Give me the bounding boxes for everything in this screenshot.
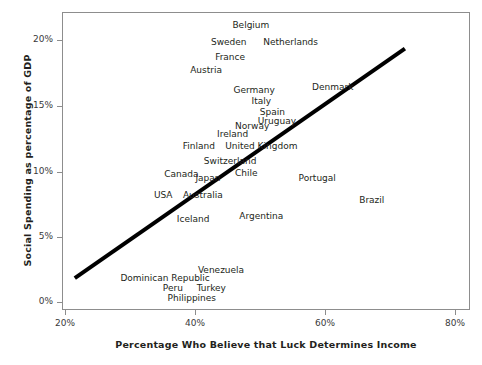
data-point-label: France (215, 52, 245, 61)
data-point-label: Japan (195, 173, 220, 182)
data-point-label: Philippines (168, 294, 217, 303)
data-point-label: Ireland (217, 130, 248, 139)
y-tick-label-0: 0% (13, 296, 53, 306)
y-tick-mark-10 (57, 172, 62, 173)
data-point-label: Netherlands (263, 38, 318, 47)
x-tick-label-80: 80% (433, 318, 477, 328)
y-tick-label-15: 15% (13, 100, 53, 110)
data-point-label: Austria (190, 65, 222, 74)
y-axis-title: Social Spending as percentage of GDP (22, 41, 33, 281)
data-point-label: Sweden (211, 38, 247, 47)
data-point-label: Argentina (239, 212, 283, 221)
y-tick-label-10: 10% (13, 166, 53, 176)
y-tick-label-20: 20% (13, 34, 53, 44)
data-point-label: Chile (235, 168, 258, 177)
x-tick-label-60: 60% (303, 318, 347, 328)
scatter-chart-figure: 20% 40% 60% 80% 0% 5% 10% 15% 20% Percen… (0, 0, 482, 365)
x-tick-label-40: 40% (173, 318, 217, 328)
data-point-label: Turkey (197, 283, 226, 292)
y-tick-mark-5 (57, 237, 62, 238)
data-point-label: Germany (234, 85, 275, 94)
y-tick-mark-15 (57, 106, 62, 107)
data-point-label: Peru (163, 283, 183, 292)
data-point-label: Canada (164, 170, 198, 179)
data-point-label: United Kingdom (225, 142, 297, 151)
y-tick-mark-20 (57, 40, 62, 41)
x-tick-label-20: 20% (43, 318, 87, 328)
data-point-label: Brazil (359, 196, 384, 205)
x-tick-mark-40 (195, 310, 196, 315)
x-tick-mark-60 (325, 310, 326, 315)
data-point-label: Belgium (232, 20, 269, 29)
y-tick-label-5: 5% (13, 231, 53, 241)
plot-area (62, 12, 470, 310)
data-point-label: Iceland (177, 214, 210, 223)
data-point-label: Australia (183, 191, 223, 200)
x-tick-mark-20 (65, 310, 66, 315)
data-point-label: Portugal (299, 173, 336, 182)
y-tick-mark-0 (57, 302, 62, 303)
data-point-label: Italy (252, 97, 272, 106)
data-point-label: Denmark (312, 82, 353, 91)
data-point-label: USA (154, 191, 173, 200)
data-point-label: Switzerland (204, 156, 257, 165)
data-point-label: Finland (183, 142, 215, 151)
x-tick-mark-80 (455, 310, 456, 315)
x-axis-title: Percentage Who Believe that Luck Determi… (62, 339, 470, 350)
